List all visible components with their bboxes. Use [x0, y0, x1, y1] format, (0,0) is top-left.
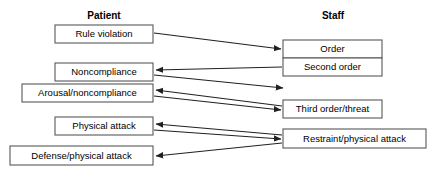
- node-label-defense-physical-attack: Defense/physical attack: [31, 150, 132, 161]
- node-defense-physical-attack[interactable]: Defense/physical attack: [10, 146, 153, 165]
- node-label-order: Order: [320, 43, 344, 54]
- node-label-arousal-noncompliance: Arousal/noncompliance: [38, 87, 137, 98]
- node-label-rule-violation: Rule violation: [75, 28, 132, 39]
- node-third-order-threat[interactable]: Third order/threat: [283, 100, 382, 118]
- node-label-physical-attack: Physical attack: [72, 120, 136, 131]
- node-label-third-order-threat: Third order/threat: [296, 103, 370, 114]
- node-physical-attack[interactable]: Physical attack: [55, 117, 153, 135]
- column-header-patient: Patient: [87, 10, 121, 21]
- node-restraint-physical-attack[interactable]: Restraint/physical attack: [283, 129, 426, 148]
- node-arousal-noncompliance[interactable]: Arousal/noncompliance: [22, 84, 153, 102]
- escalation-flow-diagram: Patient Staff Rule violation Noncomplian…: [0, 0, 443, 176]
- node-label-second-order: Second order: [304, 61, 361, 72]
- edge-noncompliance-to-third-order: [154, 75, 283, 88]
- edge-layer: [154, 33, 283, 156]
- edge-rule-violation-to-order: [154, 33, 281, 49]
- column-header-staff: Staff: [322, 10, 345, 21]
- edge-restraint-to-physical-attack: [156, 124, 282, 135]
- column-headers: Patient Staff: [87, 10, 344, 21]
- node-label-restraint-physical-attack: Restraint/physical attack: [303, 133, 406, 144]
- node-label-noncompliance: Noncompliance: [71, 66, 136, 77]
- diagram-canvas: Patient Staff Rule violation Noncomplian…: [0, 0, 443, 176]
- edge-restraint-to-defense: [156, 143, 282, 156]
- node-rule-violation[interactable]: Rule violation: [55, 25, 153, 43]
- edge-physical-attack-to-restraint: [154, 130, 281, 139]
- node-order[interactable]: Order: [283, 40, 382, 58]
- node-noncompliance[interactable]: Noncompliance: [55, 63, 153, 81]
- node-second-order[interactable]: Second order: [283, 58, 382, 76]
- edge-second-order-to-noncompliance: [156, 67, 282, 70]
